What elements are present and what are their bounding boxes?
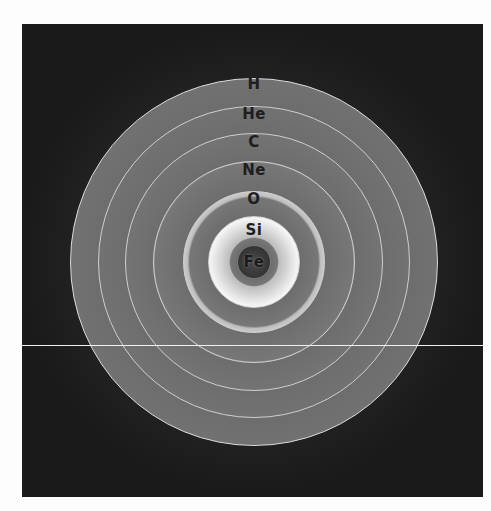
layer-label-o: O bbox=[247, 190, 260, 208]
layer-label-h: H bbox=[247, 75, 260, 93]
scan-line bbox=[22, 345, 483, 346]
layer-label-si: Si bbox=[246, 221, 263, 239]
layer-label-c: C bbox=[248, 133, 260, 151]
layer-label-ne: Ne bbox=[242, 161, 266, 179]
layer-label-fe: Fe bbox=[244, 253, 265, 271]
layer-label-he: He bbox=[242, 105, 266, 123]
